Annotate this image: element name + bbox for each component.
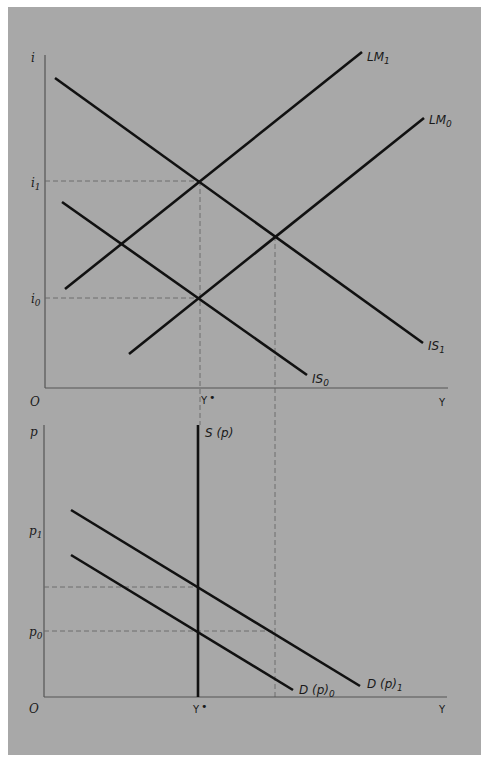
supply-label: S (p) — [205, 426, 233, 440]
demand-1-label: D (p)1 — [367, 677, 403, 693]
bottom-ystar-label: Y• — [192, 700, 208, 715]
i1-label: i1 — [31, 176, 41, 192]
p1-label: p1 — [29, 524, 42, 540]
is1-curve — [55, 78, 423, 343]
demand-0-label: D (p)0 — [299, 683, 335, 699]
bottom-y-axis-label: p — [30, 425, 38, 439]
bottom-chart: p p1 p0 S (p) D (p)0 D (p)1 O Y• Y — [29, 425, 447, 716]
top-ystar-label: Y• — [200, 391, 216, 406]
top-y-axis-label: i — [31, 51, 35, 65]
is1-label: IS1 — [428, 339, 445, 355]
lm0-label: LM0 — [429, 113, 452, 129]
is-lm-as-ad-diagram: i i1 i0 LM1 LM0 IS1 IS0 O Y• Y p p1 p0 S… — [0, 0, 481, 761]
demand-1-curve — [71, 510, 360, 686]
top-chart: i i1 i0 LM1 LM0 IS1 IS0 O Y• Y — [30, 50, 452, 697]
lm1-label: LM1 — [367, 50, 390, 66]
i0-label: i0 — [31, 292, 41, 308]
lm1-curve — [65, 52, 362, 289]
is0-curve — [62, 202, 307, 375]
lm0-curve — [129, 118, 424, 354]
is0-label: IS0 — [312, 372, 329, 388]
bottom-origin-label: O — [29, 702, 39, 716]
top-origin-label: O — [30, 395, 40, 409]
top-x-axis-label: Y — [438, 397, 446, 408]
bottom-x-axis-label: Y — [438, 704, 446, 715]
demand-0-curve — [71, 555, 293, 690]
p0-label: p0 — [29, 625, 43, 641]
